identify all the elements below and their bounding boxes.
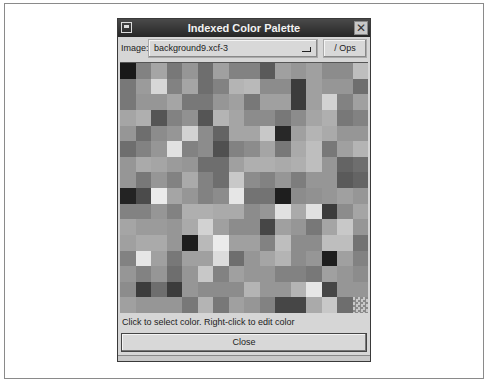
palette-color-cell[interactable]	[151, 141, 167, 157]
palette-color-cell[interactable]	[120, 188, 136, 204]
palette-color-cell[interactable]	[353, 204, 369, 220]
palette-color-cell[interactable]	[213, 172, 229, 188]
palette-color-cell[interactable]	[120, 141, 136, 157]
palette-color-cell[interactable]	[229, 282, 245, 298]
palette-color-cell[interactable]	[291, 126, 307, 142]
palette-color-cell[interactable]	[229, 172, 245, 188]
palette-color-cell[interactable]	[322, 79, 338, 95]
palette-color-cell[interactable]	[353, 188, 369, 204]
palette-color-cell[interactable]	[182, 172, 198, 188]
palette-color-cell[interactable]	[322, 251, 338, 267]
palette-color-cell[interactable]	[291, 172, 307, 188]
palette-color-cell[interactable]	[322, 141, 338, 157]
palette-color-cell[interactable]	[198, 126, 214, 142]
palette-color-cell[interactable]	[260, 204, 276, 220]
palette-color-cell[interactable]	[275, 79, 291, 95]
palette-color-cell[interactable]	[353, 266, 369, 282]
palette-color-cell[interactable]	[120, 219, 136, 235]
palette-color-cell[interactable]	[213, 266, 229, 282]
palette-color-cell[interactable]	[275, 94, 291, 110]
palette-color-cell[interactable]	[353, 141, 369, 157]
palette-color-cell[interactable]	[291, 266, 307, 282]
image-select-dropdown[interactable]: background9.xcf-3	[148, 39, 318, 58]
palette-color-cell[interactable]	[353, 219, 369, 235]
palette-color-cell[interactable]	[213, 219, 229, 235]
palette-color-cell[interactable]	[151, 110, 167, 126]
palette-color-cell[interactable]	[337, 172, 353, 188]
title-bar[interactable]: Indexed Color Palette ✕	[118, 19, 370, 37]
palette-color-cell[interactable]	[306, 79, 322, 95]
palette-color-cell[interactable]	[151, 172, 167, 188]
palette-color-cell[interactable]	[229, 110, 245, 126]
palette-color-cell[interactable]	[167, 297, 183, 313]
palette-color-cell[interactable]	[275, 282, 291, 298]
palette-color-cell[interactable]	[244, 126, 260, 142]
palette-color-cell[interactable]	[229, 157, 245, 173]
palette-color-cell[interactable]	[167, 141, 183, 157]
palette-color-cell[interactable]	[167, 188, 183, 204]
palette-color-cell[interactable]	[182, 251, 198, 267]
palette-color-cell[interactable]	[151, 219, 167, 235]
palette-color-cell[interactable]	[182, 282, 198, 298]
palette-color-cell[interactable]	[306, 297, 322, 313]
palette-color-cell[interactable]	[167, 126, 183, 142]
palette-color-cell[interactable]	[213, 79, 229, 95]
palette-color-cell[interactable]	[322, 188, 338, 204]
palette-color-cell[interactable]	[260, 219, 276, 235]
palette-color-cell[interactable]	[353, 157, 369, 173]
palette-color-cell[interactable]	[275, 219, 291, 235]
palette-color-cell[interactable]	[198, 266, 214, 282]
palette-color-cell[interactable]	[322, 282, 338, 298]
palette-color-cell[interactable]	[198, 110, 214, 126]
palette-color-cell[interactable]	[353, 63, 369, 79]
palette-color-cell[interactable]	[322, 297, 338, 313]
palette-color-cell[interactable]	[275, 297, 291, 313]
palette-color-cell[interactable]	[291, 157, 307, 173]
palette-color-cell[interactable]	[198, 63, 214, 79]
palette-color-cell[interactable]	[322, 157, 338, 173]
palette-color-cell[interactable]	[167, 204, 183, 220]
palette-color-cell[interactable]	[291, 141, 307, 157]
palette-color-cell[interactable]	[322, 110, 338, 126]
palette-color-cell[interactable]	[136, 157, 152, 173]
palette-color-cell[interactable]	[322, 126, 338, 142]
palette-color-cell[interactable]	[244, 188, 260, 204]
palette-color-cell[interactable]	[337, 266, 353, 282]
palette-color-cell[interactable]	[229, 79, 245, 95]
palette-color-cell[interactable]	[120, 251, 136, 267]
palette-color-cell[interactable]	[244, 297, 260, 313]
palette-color-cell[interactable]	[151, 282, 167, 298]
palette-color-cell[interactable]	[275, 251, 291, 267]
palette-color-cell[interactable]	[322, 266, 338, 282]
palette-color-cell[interactable]	[275, 110, 291, 126]
palette-color-cell[interactable]	[151, 235, 167, 251]
palette-color-cell[interactable]	[306, 94, 322, 110]
palette-color-cell[interactable]	[167, 63, 183, 79]
palette-color-cell[interactable]	[182, 266, 198, 282]
palette-color-cell[interactable]	[244, 219, 260, 235]
palette-color-cell[interactable]	[244, 282, 260, 298]
palette-color-cell[interactable]	[322, 235, 338, 251]
palette-color-cell[interactable]	[120, 282, 136, 298]
palette-color-cell[interactable]	[136, 141, 152, 157]
palette-color-cell[interactable]	[260, 172, 276, 188]
palette-color-cell[interactable]	[353, 79, 369, 95]
palette-color-cell[interactable]	[198, 188, 214, 204]
palette-color-cell[interactable]	[198, 297, 214, 313]
palette-color-cell[interactable]	[275, 63, 291, 79]
palette-color-cell[interactable]	[229, 63, 245, 79]
palette-color-cell[interactable]	[306, 63, 322, 79]
palette-color-cell[interactable]	[306, 188, 322, 204]
palette-color-cell[interactable]	[182, 79, 198, 95]
palette-color-cell[interactable]	[260, 141, 276, 157]
palette-color-cell[interactable]	[291, 94, 307, 110]
palette-color-cell[interactable]	[337, 94, 353, 110]
palette-color-cell[interactable]	[244, 79, 260, 95]
palette-color-cell[interactable]	[151, 63, 167, 79]
palette-color-cell[interactable]	[260, 94, 276, 110]
palette-color-cell[interactable]	[291, 79, 307, 95]
palette-color-cell[interactable]	[167, 79, 183, 95]
palette-color-cell[interactable]	[198, 282, 214, 298]
palette-color-cell[interactable]	[244, 266, 260, 282]
palette-color-cell[interactable]	[244, 204, 260, 220]
